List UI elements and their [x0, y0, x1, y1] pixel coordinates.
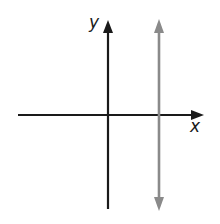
y-axis-arrow-icon — [103, 20, 113, 33]
y-axis-label: y — [89, 14, 99, 31]
vertical-line-top-arrow-icon — [154, 19, 164, 33]
vertical-line-bottom-arrow-icon — [154, 197, 164, 211]
coordinate-plane-diagram: y x — [0, 0, 220, 224]
coordinate-plane-svg — [0, 0, 220, 224]
x-axis-label: x — [190, 118, 200, 135]
x-axis — [18, 110, 204, 120]
